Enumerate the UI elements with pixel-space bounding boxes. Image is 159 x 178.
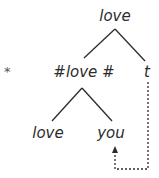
arrowhead-icon — [112, 146, 118, 153]
left-grandchild-label: love — [32, 124, 63, 142]
edge-left-left — [52, 88, 82, 121]
edge-root-left — [84, 29, 115, 58]
left-child-label: #love # — [53, 63, 114, 81]
right-grandchild-label: you — [96, 124, 125, 142]
ungrammatical-marker: * — [4, 64, 11, 79]
edge-left-right — [82, 88, 112, 121]
tree-diagram: * love #love # t love you — [0, 0, 159, 178]
edge-root-right — [115, 29, 145, 61]
root-node-label: love — [99, 7, 130, 25]
trace-label: t — [144, 63, 151, 81]
